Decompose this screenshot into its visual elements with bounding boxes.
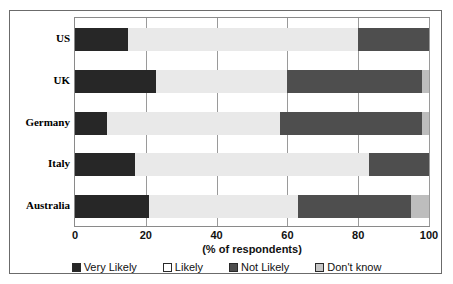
bar-segment: [75, 195, 149, 218]
x-tick-label: 60: [267, 229, 307, 241]
bar-segment: [149, 195, 298, 218]
bar-series-container: [75, 18, 429, 226]
bar-segment: [75, 70, 156, 93]
bar-segment: [107, 112, 280, 135]
legend-label: Don't know: [327, 261, 381, 273]
x-axis-title: (% of respondents): [74, 243, 430, 255]
category-label-germany: Germany: [10, 111, 70, 134]
plot-area: [74, 17, 430, 227]
bar-segment: [358, 28, 429, 51]
bar-row: [75, 112, 429, 135]
bar-segment: [280, 112, 422, 135]
bar-segment: [287, 70, 422, 93]
gridline: [429, 18, 430, 226]
bar-segment: [411, 195, 429, 218]
bar-row: [75, 70, 429, 93]
legend-label: Likely: [175, 261, 203, 273]
chart-frame: USUKGermanyItalyAustralia 020406080100 (…: [9, 10, 442, 274]
legend-swatch-icon: [163, 263, 172, 272]
bar-segment: [75, 112, 107, 135]
legend-label: Very Likely: [84, 261, 137, 273]
bar-segment: [422, 112, 429, 135]
legend-swatch-icon: [229, 263, 238, 272]
legend-swatch-icon: [315, 263, 324, 272]
category-label-australia: Australia: [10, 194, 70, 217]
legend-item[interactable]: Not Likely: [229, 261, 289, 273]
bar-row: [75, 28, 429, 51]
x-tick-label: 0: [55, 229, 95, 241]
legend-label: Not Likely: [241, 261, 289, 273]
category-axis: USUKGermanyItalyAustralia: [10, 17, 70, 227]
category-label-us: US: [10, 27, 70, 50]
legend-item[interactable]: Very Likely: [72, 261, 137, 273]
x-tick-label: 100: [409, 229, 449, 241]
bar-segment: [135, 153, 369, 176]
bar-segment: [298, 195, 411, 218]
x-tick-label: 40: [197, 229, 237, 241]
category-label-uk: UK: [10, 69, 70, 92]
bar-segment: [369, 153, 429, 176]
bar-row: [75, 153, 429, 176]
chart-legend: Very LikelyLikelyNot LikelyDon't know: [20, 260, 433, 274]
x-tick-label: 80: [338, 229, 378, 241]
bar-segment: [128, 28, 358, 51]
category-label-italy: Italy: [10, 152, 70, 175]
legend-swatch-icon: [72, 263, 81, 272]
legend-item[interactable]: Likely: [163, 261, 203, 273]
bar-segment: [75, 153, 135, 176]
x-tick-label: 20: [126, 229, 166, 241]
bar-segment: [422, 70, 429, 93]
bar-segment: [75, 28, 128, 51]
bar-row: [75, 195, 429, 218]
legend-item[interactable]: Don't know: [315, 261, 381, 273]
bar-segment: [156, 70, 287, 93]
